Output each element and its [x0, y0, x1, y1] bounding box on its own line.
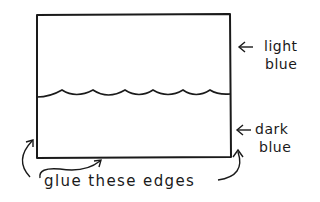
diagram-svg: light blue dark blue glue these edges	[0, 0, 320, 202]
label-dark-blue: blue	[259, 139, 291, 155]
label-light-blue: blue	[265, 56, 297, 72]
wave-divider	[37, 90, 230, 97]
dark-arrow-icon	[237, 125, 251, 135]
diagram-canvas: light blue dark blue glue these edges	[0, 0, 320, 202]
label-glue-edges: glue these edges	[44, 172, 195, 190]
glue-left-arrow-icon	[22, 140, 33, 177]
label-dark: dark	[255, 121, 289, 137]
panel-outline	[37, 14, 231, 158]
label-light: light	[264, 38, 298, 54]
light-arrow-icon	[239, 42, 253, 52]
